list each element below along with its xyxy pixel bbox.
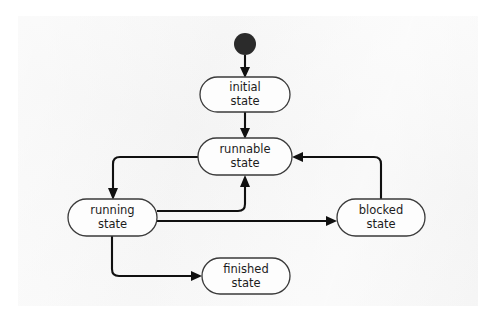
runnable-to-running-line xyxy=(113,157,198,191)
state-runnable-label-line1: runnable xyxy=(219,142,270,156)
running-to-runnable-line xyxy=(157,184,245,211)
transition-runnable-to-running xyxy=(108,157,198,200)
state-node-blocked[interactable]: blocked state xyxy=(337,199,425,236)
running-to-blocked-arrowhead xyxy=(326,216,337,226)
state-finished-label-line2: state xyxy=(231,276,260,290)
state-running-label-line2: state xyxy=(98,217,127,231)
transition-initial-to-runnable xyxy=(240,112,250,139)
state-node-running[interactable]: running state xyxy=(68,199,157,236)
state-node-initial[interactable]: initial state xyxy=(200,77,290,112)
blocked-to-runnable-arrowhead xyxy=(292,152,303,162)
state-finished-label-line1: finished xyxy=(223,262,268,276)
runnable-to-running-arrowhead xyxy=(108,188,118,200)
blocked-to-runnable-line xyxy=(300,157,381,199)
running-to-runnable-arrowhead xyxy=(240,175,250,187)
transition-running-to-runnable xyxy=(157,175,250,211)
transition-blocked-to-runnable xyxy=(292,152,381,199)
state-blocked-label-line1: blocked xyxy=(359,203,403,217)
state-blocked-label-line2: state xyxy=(366,217,395,231)
state-node-finished[interactable]: finished state xyxy=(202,258,290,294)
transition-running-to-finished xyxy=(112,236,202,281)
state-initial-label-line1: initial xyxy=(229,80,261,94)
state-node-runnable[interactable]: runnable state xyxy=(198,138,292,175)
diagram-svg-layer: initial state runnable state running sta… xyxy=(0,0,496,324)
transition-running-to-blocked xyxy=(157,216,337,226)
running-to-finished-line xyxy=(112,236,194,276)
state-runnable-label-line2: state xyxy=(230,156,259,170)
state-initial-label-line2: state xyxy=(230,94,259,108)
state-running-label-line1: running xyxy=(90,203,134,217)
state-diagram-root: initial state runnable state running sta… xyxy=(0,0,496,324)
transition-start-to-initial xyxy=(240,55,250,78)
running-to-finished-arrowhead xyxy=(191,271,202,281)
initial-pseudostate-dot xyxy=(234,33,256,55)
